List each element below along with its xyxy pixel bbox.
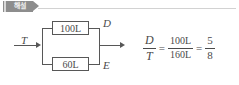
- label-node-E: E: [103, 59, 110, 71]
- output-wire: [99, 45, 121, 46]
- fraction-denominator: 160L: [168, 50, 193, 61]
- output-arrowhead-icon: [120, 42, 125, 48]
- badge-arrow-point-icon: [33, 1, 39, 11]
- section-badge: 해설: [3, 1, 39, 12]
- equals-sign-2: =: [193, 42, 205, 54]
- left-junction-wire: [42, 28, 43, 64]
- component-bottom: 60L: [52, 57, 89, 71]
- fraction-numerator: 100L: [168, 36, 193, 47]
- parallel-circuit-diagram: 100L 60L T D E: [0, 14, 140, 85]
- component-top: 100L: [52, 21, 89, 35]
- fraction-d-over-t: D T: [143, 34, 156, 62]
- fraction-numerator: D: [143, 34, 156, 47]
- badge-label: 해설: [8, 1, 32, 12]
- badge-stripe: [4, 1, 6, 12]
- label-input-T: T: [21, 34, 27, 46]
- right-junction-wire: [99, 28, 100, 64]
- bottom-branch-right-wire: [88, 64, 100, 65]
- fraction-denominator: T: [144, 50, 155, 63]
- ratio-equation: D T = 100L 160L = 5 8: [143, 28, 215, 68]
- fraction-5-over-8: 5 8: [205, 35, 215, 61]
- equals-sign-1: =: [156, 42, 168, 54]
- header-divider: [38, 8, 236, 9]
- fraction-numerator: 5: [205, 35, 215, 47]
- label-node-D: D: [103, 17, 111, 29]
- input-arrowhead-icon: [36, 42, 41, 48]
- fraction-denominator: 8: [205, 50, 215, 62]
- fraction-100l-over-160l: 100L 160L: [168, 36, 193, 60]
